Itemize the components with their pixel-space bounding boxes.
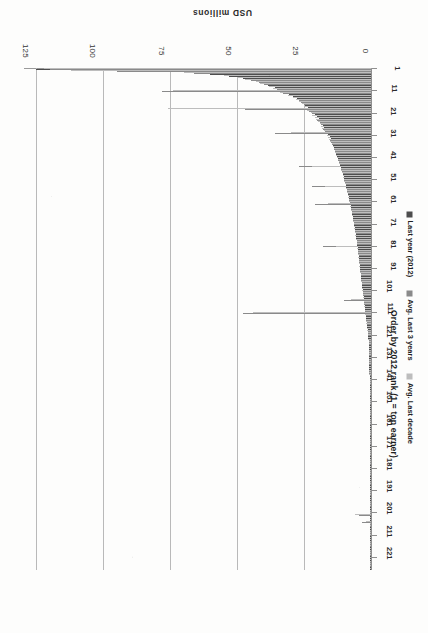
bar — [370, 468, 371, 469]
bar — [371, 524, 372, 525]
bar — [370, 464, 371, 465]
bar — [328, 136, 371, 137]
legend-item-2[interactable]: Avg. Last decade — [406, 374, 415, 444]
category-tick-mark-1 — [372, 68, 377, 69]
category-tick-mark-11 — [372, 90, 377, 91]
bar — [352, 211, 371, 212]
bar — [371, 541, 372, 542]
category-tick-mark-211 — [372, 535, 377, 536]
bar — [362, 284, 371, 285]
bar — [364, 306, 371, 307]
bar — [370, 427, 371, 428]
bar — [369, 360, 371, 361]
category-tick-191: 191 — [385, 480, 394, 493]
bar — [299, 102, 371, 103]
bar — [362, 280, 372, 281]
bar — [339, 164, 371, 165]
bar — [331, 142, 371, 143]
value-tick-100: 100 — [88, 44, 97, 58]
bar — [360, 271, 371, 272]
bar — [320, 124, 371, 125]
bar — [353, 216, 371, 217]
bar — [366, 322, 371, 323]
bar — [370, 467, 371, 468]
bar — [371, 513, 372, 514]
bar — [353, 220, 371, 221]
bar — [371, 488, 372, 489]
bar — [358, 251, 371, 252]
legend-item-1[interactable]: Avg. Last 3 years — [406, 290, 415, 360]
bar — [365, 315, 371, 316]
bar — [370, 375, 371, 376]
bar — [371, 518, 372, 519]
bar — [371, 502, 372, 503]
category-tick-mark-221 — [372, 557, 377, 558]
bar — [352, 213, 371, 214]
bar — [352, 215, 371, 216]
bar — [371, 489, 372, 490]
bar — [362, 286, 371, 287]
bar — [353, 217, 371, 218]
bar — [371, 553, 372, 554]
bar — [371, 484, 372, 485]
bar — [332, 144, 371, 145]
bar — [334, 148, 371, 149]
bar — [350, 206, 371, 207]
bar — [369, 358, 371, 359]
bar — [370, 439, 371, 440]
bar — [243, 313, 371, 314]
bar — [341, 169, 371, 170]
bar — [369, 349, 371, 350]
bar — [370, 381, 371, 382]
bar — [371, 498, 372, 499]
bar — [354, 224, 371, 225]
bar — [354, 224, 371, 225]
bar — [117, 71, 371, 72]
bar — [370, 464, 371, 465]
legend-label: Last year (2012) — [406, 221, 415, 278]
bar — [370, 411, 371, 412]
legend-item-0[interactable]: Last year (2012) — [406, 212, 415, 278]
bar — [369, 344, 371, 345]
bar — [370, 382, 371, 383]
bar — [370, 455, 371, 456]
bar — [369, 353, 371, 354]
bar — [301, 102, 371, 103]
bar — [371, 478, 372, 479]
bar — [323, 247, 371, 248]
value-tick-75: 75 — [157, 46, 166, 56]
gridline-100 — [103, 68, 104, 570]
bar — [335, 153, 371, 154]
category-tick-mark-111 — [372, 312, 377, 313]
bar — [194, 73, 371, 74]
bar — [371, 486, 372, 487]
bar — [357, 244, 371, 245]
bar — [370, 402, 371, 403]
bar — [369, 367, 371, 368]
bar — [348, 197, 371, 198]
bar — [370, 430, 371, 431]
bar — [361, 277, 371, 278]
bar — [371, 481, 372, 482]
bar — [365, 311, 371, 312]
bar — [370, 438, 371, 439]
bar — [371, 524, 372, 525]
bar — [71, 71, 371, 72]
category-tick-mark-191 — [372, 490, 377, 491]
bar — [296, 99, 371, 100]
category-tick-mark-61 — [372, 201, 377, 202]
bar — [342, 171, 371, 172]
bar — [370, 421, 371, 422]
bar — [245, 109, 371, 110]
bar — [367, 322, 371, 323]
category-tick-mark-71 — [372, 224, 377, 225]
bar — [371, 547, 372, 548]
bar — [322, 128, 371, 129]
bar — [367, 326, 371, 327]
bar — [357, 240, 371, 241]
bar — [355, 229, 371, 230]
bar — [184, 73, 371, 74]
gridline-50 — [237, 68, 238, 570]
bar — [370, 420, 371, 421]
bar — [370, 393, 371, 394]
